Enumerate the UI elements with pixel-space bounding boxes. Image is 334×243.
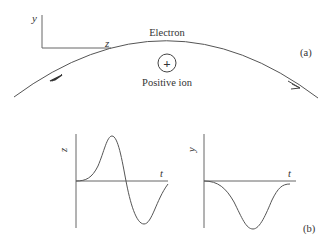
- axis-z-label: z: [104, 37, 110, 49]
- panel-a-tag: (a): [300, 47, 312, 59]
- ion-plus-symbol: +: [163, 56, 170, 71]
- plot-right-x-label: t: [288, 168, 292, 179]
- positive-ion: +: [158, 54, 176, 72]
- plot-z-vs-t: t z: [58, 134, 168, 228]
- trajectory-arrow-right-icon: [288, 81, 300, 89]
- trajectory-arrow-left-icon: [50, 75, 62, 81]
- plot-right-y-label: y: [186, 147, 197, 153]
- electron-scattering-diagram: y z Electron + Positive ion (a) t z t y …: [0, 0, 334, 243]
- positive-ion-label: Positive ion: [142, 77, 193, 88]
- axis-y-label: y: [31, 12, 37, 24]
- electron-label: Electron: [149, 27, 185, 38]
- coordinate-axes: y z: [31, 12, 111, 49]
- panel-b-tag: (b): [303, 223, 316, 235]
- plot-y-vs-t: t y: [186, 134, 296, 229]
- plot-left-y-label: z: [58, 148, 69, 153]
- plot-left-x-label: t: [160, 168, 164, 179]
